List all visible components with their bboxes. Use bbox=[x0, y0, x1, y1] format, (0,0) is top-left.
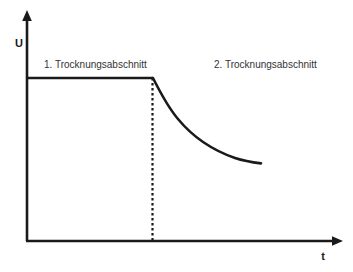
phase-2-label: 2. Trocknungsabschnitt bbox=[214, 59, 317, 70]
x-axis-label: t bbox=[321, 250, 325, 262]
x-axis bbox=[26, 236, 343, 246]
x-axis-arrowhead bbox=[332, 236, 343, 246]
y-axis-label: U bbox=[15, 37, 23, 49]
falling-rate-curve bbox=[153, 78, 261, 163]
y-axis-arrowhead bbox=[22, 10, 32, 21]
y-axis bbox=[22, 10, 32, 241]
drying-curve-figure: U t 1. Trocknungsabschnitt 2. Trocknungs… bbox=[0, 0, 353, 272]
phase-1-label: 1. Trocknungsabschnitt bbox=[44, 59, 147, 70]
chart-canvas: U t 1. Trocknungsabschnitt 2. Trocknungs… bbox=[0, 0, 353, 272]
